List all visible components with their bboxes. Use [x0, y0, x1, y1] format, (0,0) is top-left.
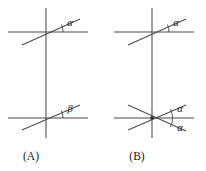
panel-a-top-intersection: α [8, 17, 88, 45]
panel-a-bottom-angle-arc [61, 111, 63, 118]
panel-b-bottom-angle-arc-lower [170, 118, 172, 127]
panel-a-caption: (A) [23, 150, 39, 163]
panel-a-top-angle-arc [61, 25, 63, 32]
panel-b-top-angle-label: α [173, 17, 179, 28]
figure-canvas: α β (A) α [0, 0, 206, 171]
panel-b-top-intersection: α [114, 17, 194, 45]
panel-a-bottom-angle-label: β [66, 103, 73, 114]
panel-b-bottom-intersection: α α [114, 103, 194, 133]
panel-b-bottom-angle-label-lower: α [177, 122, 183, 133]
panel-b-caption: (B) [129, 150, 145, 163]
panel-b-bottom-angle-label-upper: α [177, 103, 183, 114]
panel-a: α β (A) [8, 8, 88, 163]
panel-b: α α α (B) [114, 8, 194, 163]
panel-b-top-angle-arc [167, 25, 169, 32]
panel-b-bottom-node-dot [150, 116, 154, 120]
panel-a-bottom-intersection: β [8, 103, 88, 130]
geometry-figure: α β (A) α [0, 0, 206, 171]
panel-a-top-angle-label: α [67, 17, 73, 28]
